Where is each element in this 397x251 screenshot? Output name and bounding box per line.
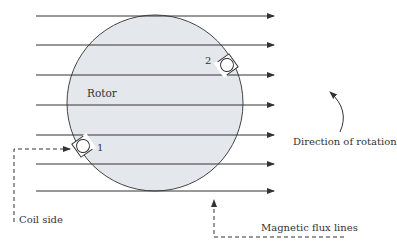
coil-label-1: 1 bbox=[97, 142, 103, 153]
magnetic-flux-lines-label: Magnetic flux lines bbox=[261, 222, 358, 233]
coil-side-label: Coil side bbox=[19, 214, 63, 225]
rotor-diagram: 2 1 Rotor Coil side Magnetic flux lines … bbox=[0, 0, 397, 251]
direction-of-rotation-label: Direction of rotation bbox=[293, 136, 397, 147]
rotor bbox=[67, 15, 243, 191]
rotor-label: Rotor bbox=[87, 87, 118, 99]
coil-side-leader bbox=[14, 149, 70, 222]
rotation-arrow-icon bbox=[330, 92, 343, 132]
coil-label-2: 2 bbox=[205, 55, 211, 66]
